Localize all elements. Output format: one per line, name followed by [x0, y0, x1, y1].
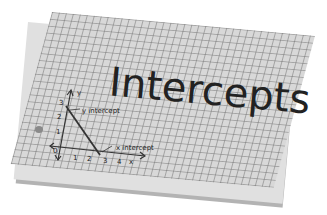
y-tick-1: 1	[56, 128, 60, 136]
x-tick-2: 2	[87, 155, 91, 163]
x-tick-3: 3	[103, 157, 107, 165]
handwriting-layer: Intercepts y y intercept x intercept 0 3…	[0, 0, 327, 215]
y-intercept-pointer	[70, 109, 80, 110]
x-intercept-label: x intercept	[116, 144, 154, 152]
card-title: Intercepts	[107, 58, 312, 122]
x-tick-4: 4	[117, 158, 122, 166]
x-axis-label: x	[129, 158, 133, 166]
y-axis-label: y	[77, 89, 81, 97]
x-intercept-pointer	[102, 146, 112, 152]
y-intercept-label: y intercept	[82, 107, 120, 115]
origin-label: 0	[53, 147, 57, 155]
y-tick-2: 2	[57, 113, 61, 121]
x-tick-1: 1	[73, 154, 77, 162]
y-tick-3: 3	[59, 99, 63, 107]
